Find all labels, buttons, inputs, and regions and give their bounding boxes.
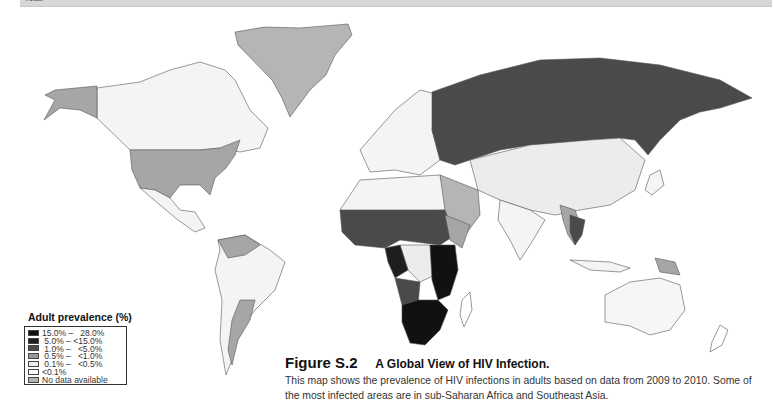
region-japan <box>645 170 664 195</box>
legend-label: No data available <box>42 375 108 385</box>
legend-swatch <box>28 377 39 383</box>
region-southern-africa <box>402 300 448 345</box>
region-australia <box>605 278 685 335</box>
region-greenland <box>235 24 352 117</box>
figure-caption-body: This map shows the prevalence of HIV inf… <box>285 373 765 403</box>
legend-swatch <box>28 369 39 375</box>
legend-swatch <box>28 338 39 344</box>
region-europe <box>360 90 440 175</box>
legend-swatch <box>28 353 39 359</box>
figure-title: A Global View of HIV Infection. <box>375 357 549 371</box>
legend-title: Adult prevalence (%) <box>28 311 132 323</box>
region-madagascar <box>460 292 472 327</box>
figure-label: Figure S.2 <box>285 354 358 371</box>
region-new-zealand <box>710 325 728 352</box>
legend-swatch <box>28 361 39 367</box>
legend-swatch <box>28 330 39 336</box>
map-legend: 15.0% – 28.0% 5.0% – <15.0% 1.0% – <5.0%… <box>24 326 127 385</box>
region-north-africa <box>340 175 445 215</box>
region-canada <box>97 62 268 152</box>
region-east-africa <box>430 245 458 300</box>
region-papua <box>655 258 680 275</box>
legend-swatch <box>28 345 39 351</box>
region-indonesia <box>570 260 630 272</box>
region-alaska <box>44 86 97 120</box>
figure-caption-title: Figure S.2 A Global View of HIV Infectio… <box>285 354 549 371</box>
region-west-central-africa <box>340 210 455 248</box>
legend-item: No data available <box>28 376 123 384</box>
